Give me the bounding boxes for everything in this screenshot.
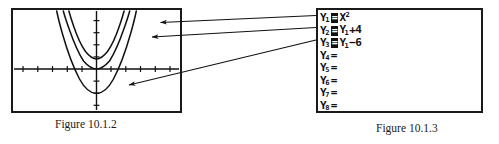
y-row-expression-base-1: X	[339, 11, 345, 24]
y-row-expression-3[interactable]: Y1−6	[339, 37, 361, 50]
parabola-graph	[13, 10, 180, 111]
callout-line-y1	[161, 16, 317, 23]
y-row-expression-tail-2: +4	[349, 23, 361, 36]
y-row-equals-3[interactable]: =	[331, 38, 339, 48]
y-row-equals-6[interactable]: =	[330, 75, 337, 87]
y-row-subscript-8: 8	[325, 102, 329, 114]
y-editor-row-5[interactable]: Y5=	[320, 62, 338, 74]
y-editor-row-7[interactable]: Y7=	[320, 87, 338, 99]
y-editor-screen-panel: Y1=X2 Y2=Y1+4 Y3=Y1−6 Y4= Y5= Y6= Y7= Y	[316, 8, 483, 113]
y-row-equals-7[interactable]: =	[330, 87, 337, 99]
y-equation-list: Y1=X2 Y2=Y1+4 Y3=Y1−6 Y4= Y5= Y6= Y7= Y	[320, 11, 481, 110]
y-row-equals-4[interactable]: =	[330, 50, 337, 62]
figure-caption-right: Figure 10.1.3	[376, 122, 438, 134]
y-editor-row-4[interactable]: Y4=	[320, 50, 338, 62]
y-editor-row-6[interactable]: Y6=	[320, 75, 338, 87]
y-editor-row-3[interactable]: Y3=Y1−6	[320, 37, 361, 49]
y-row-exponent-1: 2	[346, 11, 350, 19]
figure-caption-left: Figure 10.1.2	[55, 118, 117, 130]
figure-root: Y1=X2 Y2=Y1+4 Y3=Y1−6 Y4= Y5= Y6= Y7= Y	[0, 0, 499, 144]
y-editor-row-8[interactable]: Y8=	[320, 100, 338, 112]
y-row-equals-8[interactable]: =	[330, 100, 337, 112]
y-row-equals-1[interactable]: =	[331, 13, 339, 23]
y-row-expression-tail-3: −6	[349, 36, 361, 49]
y-row-equals-2[interactable]: =	[331, 26, 339, 36]
y-row-expression-subscript-3: 1	[345, 42, 349, 50]
graph-screen-panel	[11, 8, 182, 113]
y-row-equals-5[interactable]: =	[330, 62, 337, 74]
